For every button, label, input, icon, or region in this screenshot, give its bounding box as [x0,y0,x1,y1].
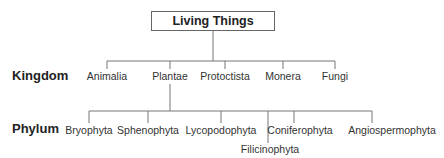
rank-label-kingdom: Kingdom [12,68,68,83]
kingdom-node-plantae: Plantae [152,70,188,82]
root-node-box: Living Things [151,11,275,31]
kingdom-node-protoctista: Protoctista [200,70,250,82]
phylum-node-bryophyta: Bryophyta [65,124,112,136]
phylum-node-coniferophyta: Coniferophyta [267,124,332,136]
rank-label-phylum: Phylum [12,121,59,136]
phylum-node-angiospermophyta: Angiospermophyta [348,124,436,136]
root-node-label: Living Things [172,14,253,28]
kingdom-node-animalia: Animalia [87,70,127,82]
phylum-node-filicinophyta: Filicinophyta [241,143,299,155]
phylum-node-sphenophyta: Sphenophyta [117,124,179,136]
kingdom-node-fungi: Fungi [322,70,348,82]
kingdom-node-monera: Monera [265,70,301,82]
phylum-node-lycopodophyta: Lycopodophyta [186,124,257,136]
